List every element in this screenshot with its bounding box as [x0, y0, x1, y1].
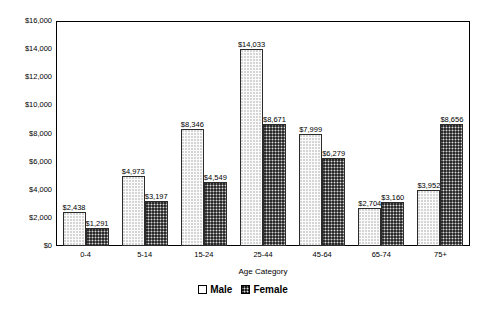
bar-value-label: $3,952	[417, 181, 440, 190]
legend-item-male[interactable]: Male	[198, 284, 232, 295]
bar-group: $14,033$8,671	[240, 21, 286, 246]
bar-male-0-4: $2,438	[63, 212, 86, 246]
bar-female-5-14: $3,197	[145, 201, 168, 246]
legend-label: Female	[253, 284, 287, 295]
x-axis: 0-45-1415-2425-4445-6465-7475+	[56, 250, 470, 262]
bar-female-15-24: $4,549	[204, 182, 227, 246]
bar-value-label: $2,704	[358, 199, 381, 208]
x-axis-tick-label: 15-24	[194, 250, 213, 260]
bar-value-label: $8,346	[181, 120, 204, 129]
y-axis-tick-label: $8,000	[0, 130, 52, 138]
bar-group: $7,999$6,279	[299, 21, 345, 246]
legend-swatch-icon	[198, 285, 207, 294]
bar-value-label: $2,438	[63, 203, 86, 212]
bar-value-label: $7,999	[299, 125, 322, 134]
x-axis-tick-label: 5-14	[137, 250, 152, 260]
y-axis-tick-label: $14,000	[0, 45, 52, 53]
bar-male-5-14: $4,973	[122, 176, 145, 246]
y-axis-tick-label: $6,000	[0, 158, 52, 166]
x-axis-tick-label: 0-4	[80, 250, 91, 260]
bar-chart: $0$2,000$4,000$6,000$8,000$10,000$12,000…	[0, 0, 486, 309]
bar-group: $8,346$4,549	[181, 21, 227, 246]
bar-value-label: $14,033	[238, 40, 265, 49]
bar-male-15-24: $8,346	[181, 129, 204, 246]
bar-male-75+: $3,952	[417, 190, 440, 246]
x-axis-tick-label: 45-64	[313, 250, 332, 260]
bar-male-45-64: $7,999	[299, 134, 322, 246]
legend-item-female[interactable]: Female	[241, 284, 287, 295]
bar-value-label: $1,291	[86, 219, 109, 228]
bar-value-label: $6,279	[322, 149, 345, 158]
bars-layer: $2,438$1,291$4,973$3,197$8,346$4,549$14,…	[56, 21, 470, 246]
bar-value-label: $4,973	[122, 167, 145, 176]
legend-swatch-icon	[241, 285, 250, 294]
bar-value-label: $8,656	[440, 115, 463, 124]
x-axis-title: Age Category	[56, 266, 470, 277]
y-axis-tick-label: $10,000	[0, 101, 52, 109]
bar-female-0-4: $1,291	[86, 228, 109, 246]
y-axis-tick-label: $16,000	[0, 17, 52, 25]
bar-female-75+: $8,656	[440, 124, 463, 246]
bar-value-label: $8,671	[263, 115, 286, 124]
x-axis-tick-label: 25-44	[253, 250, 272, 260]
bar-group: $4,973$3,197	[122, 21, 168, 246]
bar-group: $2,704$3,160	[358, 21, 404, 246]
y-axis-tick-label: $0	[0, 242, 52, 250]
bar-value-label: $3,160	[381, 193, 404, 202]
bar-female-45-64: $6,279	[322, 158, 345, 246]
y-axis-tick-label: $2,000	[0, 214, 52, 222]
bar-group: $2,438$1,291	[63, 21, 109, 246]
y-axis-tick-label: $12,000	[0, 73, 52, 81]
bar-female-25-44: $8,671	[263, 124, 286, 246]
y-axis-tick-label: $4,000	[0, 186, 52, 194]
y-axis: $0$2,000$4,000$6,000$8,000$10,000$12,000…	[0, 21, 52, 246]
bar-female-65-74: $3,160	[381, 202, 404, 246]
bar-male-25-44: $14,033	[240, 49, 263, 246]
bar-group: $3,952$8,656	[417, 21, 463, 246]
legend: MaleFemale	[0, 284, 486, 295]
bar-male-65-74: $2,704	[358, 208, 381, 246]
x-axis-tick-label: 75+	[434, 250, 447, 260]
x-axis-tick-label: 65-74	[372, 250, 391, 260]
legend-label: Male	[210, 284, 232, 295]
bar-value-label: $3,197	[145, 192, 168, 201]
bar-value-label: $4,549	[204, 173, 227, 182]
